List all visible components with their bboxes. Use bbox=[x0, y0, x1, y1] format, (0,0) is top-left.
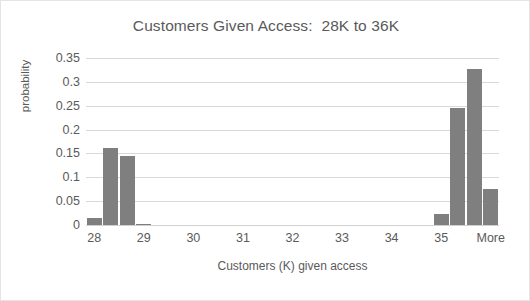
chart-container: Customers Given Access: 28K to 36K proba… bbox=[0, 0, 530, 301]
bar bbox=[434, 214, 449, 225]
gridline bbox=[86, 201, 499, 202]
bar bbox=[450, 108, 465, 225]
gridline bbox=[86, 106, 499, 107]
gridline bbox=[86, 130, 499, 131]
y-tick-label: 0 bbox=[30, 218, 80, 232]
bar bbox=[136, 224, 151, 225]
bar bbox=[87, 218, 102, 225]
y-tick-label: 0.05 bbox=[30, 194, 80, 208]
y-tick-label: 0.3 bbox=[30, 75, 80, 89]
y-tick-label: 0.15 bbox=[30, 146, 80, 160]
gridline bbox=[86, 225, 499, 226]
chart-title: Customers Given Access: 28K to 36K bbox=[1, 17, 530, 35]
bar bbox=[483, 189, 498, 225]
x-tick-label: 28 bbox=[87, 231, 101, 245]
plot-area bbox=[86, 58, 499, 225]
bar bbox=[120, 156, 135, 225]
bar bbox=[103, 148, 118, 225]
x-axis-title: Customers (K) given access bbox=[86, 259, 499, 273]
y-tick-label: 0.1 bbox=[30, 170, 80, 184]
bar bbox=[467, 69, 482, 225]
gridline bbox=[86, 58, 499, 59]
x-tick-label: 31 bbox=[236, 231, 250, 245]
gridline bbox=[86, 82, 499, 83]
x-tick-label: 29 bbox=[137, 231, 151, 245]
x-tick-label: 34 bbox=[385, 231, 399, 245]
x-tick-label: 35 bbox=[434, 231, 448, 245]
gridline bbox=[86, 177, 499, 178]
x-tick-label: More bbox=[476, 231, 504, 245]
x-tick-label: 33 bbox=[335, 231, 349, 245]
gridline bbox=[86, 153, 499, 154]
y-tick-label: 0.2 bbox=[30, 123, 80, 137]
y-tick-label: 0.35 bbox=[30, 51, 80, 65]
x-tick-label: 32 bbox=[286, 231, 300, 245]
x-tick-label: 30 bbox=[186, 231, 200, 245]
x-axis-tick-labels: 2829303132333435More bbox=[86, 231, 499, 251]
y-axis-tick-labels: 00.050.10.150.20.250.30.35 bbox=[28, 58, 80, 225]
y-tick-label: 0.25 bbox=[30, 99, 80, 113]
